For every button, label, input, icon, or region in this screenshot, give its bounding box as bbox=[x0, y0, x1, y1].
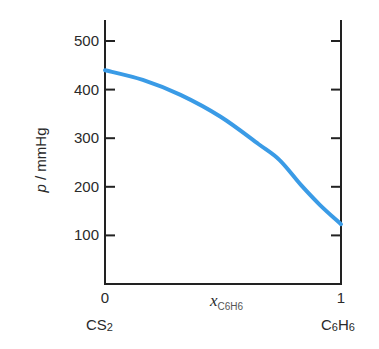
right-component-h: H bbox=[338, 316, 349, 333]
y-axis-title-symbol: p bbox=[32, 184, 49, 193]
right-component-h-sub: 6 bbox=[349, 321, 355, 333]
left-component-label: CS2 bbox=[86, 316, 113, 333]
left-component-main: CS bbox=[86, 316, 107, 333]
x-tick-label-0: 0 bbox=[101, 289, 109, 306]
vapour-pressure-curve bbox=[105, 70, 341, 224]
vapour-pressure-chart: 10020030040050001 p / mmHg xC6H6 CS2 C6H… bbox=[0, 0, 379, 349]
y-tick-label-200: 200 bbox=[74, 178, 99, 195]
right-component-label: C6H6 bbox=[321, 316, 355, 333]
x-axis-title: xC6H6 bbox=[209, 291, 244, 312]
y-tick-label-100: 100 bbox=[74, 226, 99, 243]
y-axis-title-unit: / mmHg bbox=[32, 127, 49, 184]
right-component-c: C bbox=[321, 316, 332, 333]
y-tick-label-400: 400 bbox=[74, 81, 99, 98]
y-tick-label-300: 300 bbox=[74, 129, 99, 146]
left-component-sub: 2 bbox=[107, 321, 113, 333]
x-axis-title-subscript: C6H6 bbox=[218, 301, 244, 312]
y-axis-title: p / mmHg bbox=[32, 127, 49, 193]
ticks-layer bbox=[105, 41, 341, 235]
x-tick-label-1: 1 bbox=[337, 289, 345, 306]
y-tick-label-500: 500 bbox=[74, 32, 99, 49]
